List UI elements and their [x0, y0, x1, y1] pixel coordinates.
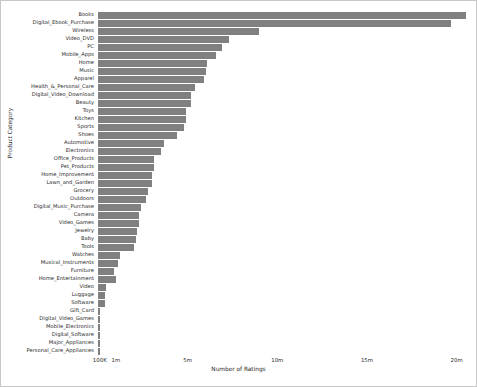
bar [98, 12, 466, 18]
bar [98, 20, 451, 26]
bar [98, 228, 137, 234]
bar [98, 348, 100, 354]
x-axis-tick-label: 10m [271, 357, 283, 363]
chart-figure: BooksDigital_Ebook_PurchaseWirelessVideo… [0, 0, 477, 387]
x-axis-title: Number of Ratings [1, 366, 476, 372]
bar [98, 324, 100, 330]
bar [98, 196, 146, 202]
bar [98, 292, 105, 298]
bar [98, 300, 105, 306]
bar [98, 156, 154, 162]
bar [98, 84, 195, 90]
x-axis-line [98, 355, 471, 356]
bar [98, 68, 206, 74]
x-axis-tick-label: 15m [361, 357, 373, 363]
bar [98, 76, 204, 82]
bar [98, 204, 141, 210]
bar [98, 236, 136, 242]
bar [98, 212, 139, 218]
bar [98, 244, 134, 250]
bar [98, 172, 152, 178]
bar [98, 132, 177, 138]
bar [98, 116, 186, 122]
bar [98, 164, 154, 170]
bar [98, 140, 164, 146]
bar [98, 268, 114, 274]
plot-area: BooksDigital_Ebook_PurchaseWirelessVideo… [98, 11, 471, 355]
bar [98, 316, 100, 322]
bar [98, 188, 148, 194]
bar [98, 332, 100, 338]
y-axis-title-label: Product Category [7, 93, 13, 173]
bar [98, 100, 191, 106]
bar [98, 44, 222, 50]
bar [98, 252, 120, 258]
bar [98, 180, 152, 186]
bar [98, 148, 161, 154]
bar [98, 52, 216, 58]
bar [98, 340, 100, 346]
x-axis-tick-label: 5m [183, 357, 192, 363]
bar [98, 308, 100, 314]
bar [98, 28, 259, 34]
bar [98, 220, 139, 226]
bar [98, 92, 191, 98]
bar [98, 284, 106, 290]
bar [98, 36, 229, 42]
y-axis-tick-label: Personal_Care_Appliances [27, 346, 94, 355]
bar [98, 124, 184, 130]
x-axis-tick-label: 100K [93, 357, 107, 363]
x-axis-tick-label: 1m [112, 357, 121, 363]
x-axis-tick-label: 20m [451, 357, 463, 363]
bar [98, 60, 207, 66]
bar [98, 260, 118, 266]
y-axis-title: Product Category [7, 93, 13, 173]
bar [98, 276, 116, 282]
bar [98, 108, 186, 114]
